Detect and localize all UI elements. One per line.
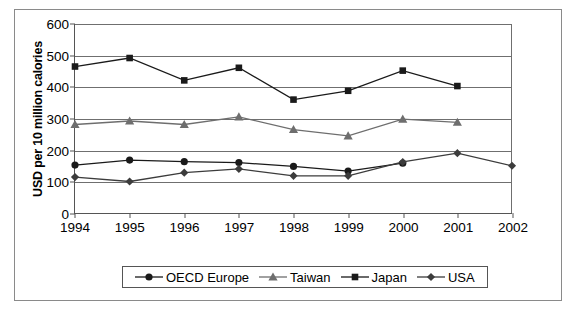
circle-marker	[290, 163, 297, 170]
legend-item-oecd-europe: OECD Europe	[135, 270, 249, 285]
series-line	[75, 58, 457, 100]
x-tick-label: 2000	[388, 220, 418, 235]
diamond-marker	[235, 165, 243, 173]
circle-marker	[181, 158, 188, 165]
square-marker	[236, 65, 243, 72]
legend-label: Taiwan	[290, 270, 330, 285]
plot-area: 0100200300400500600 19941995199619971998…	[74, 24, 512, 214]
legend-label: Japan	[372, 270, 407, 285]
x-tick-mark	[129, 213, 130, 218]
chart-figure: USD per 10 million calories 010020030040…	[0, 0, 577, 312]
y-tick-label: 400	[46, 80, 69, 95]
y-tick-label: 500	[46, 48, 69, 63]
diamond-marker	[180, 169, 188, 177]
triangle-icon	[259, 271, 287, 283]
diamond-marker	[126, 177, 134, 185]
x-tick-label: 2001	[443, 220, 473, 235]
square-marker	[351, 274, 358, 281]
square-marker	[345, 87, 352, 94]
x-tick-label: 1998	[279, 220, 309, 235]
x-tick-mark	[294, 213, 295, 218]
square-marker	[454, 83, 461, 90]
legend-item-japan: Japan	[341, 270, 407, 285]
y-tick-label: 300	[46, 112, 69, 127]
square-marker	[399, 67, 406, 74]
x-tick-label: 1996	[169, 220, 199, 235]
chart-legend: OECD EuropeTaiwanJapanUSA	[122, 266, 488, 288]
x-tick-label: 1995	[115, 220, 145, 235]
y-tick-label: 200	[46, 143, 69, 158]
series-layer	[75, 24, 512, 213]
x-tick-label: 2002	[498, 220, 528, 235]
legend-label: USA	[448, 270, 475, 285]
square-marker	[181, 77, 188, 84]
y-tick-label: 600	[46, 17, 69, 32]
x-tick-label: 1994	[60, 220, 90, 235]
triangle-marker	[398, 115, 407, 123]
triangle-marker	[125, 116, 134, 124]
circle-marker	[71, 162, 78, 169]
square-marker	[290, 96, 297, 103]
x-tick-mark	[184, 213, 185, 218]
y-axis-title: USD per 10 million calories	[31, 19, 45, 219]
x-tick-mark	[513, 213, 514, 218]
x-tick-mark	[403, 213, 404, 218]
series-japan	[72, 55, 461, 103]
square-marker	[126, 55, 133, 62]
x-tick-mark	[239, 213, 240, 218]
square-icon	[341, 271, 369, 283]
legend-label: OECD Europe	[166, 270, 249, 285]
legend-item-usa: USA	[417, 270, 475, 285]
diamond-marker	[427, 273, 435, 281]
series-taiwan	[70, 112, 462, 139]
y-tick-label: 100	[46, 175, 69, 190]
circle-marker	[145, 273, 152, 280]
circle-marker	[126, 156, 133, 163]
x-tick-mark	[458, 213, 459, 218]
diamond-marker	[289, 172, 297, 180]
x-tick-label: 1997	[224, 220, 254, 235]
square-marker	[72, 63, 79, 70]
x-tick-label: 1999	[334, 220, 364, 235]
diamond-marker	[453, 149, 461, 157]
diamond-icon	[417, 271, 445, 283]
x-tick-mark	[75, 213, 76, 218]
circle-icon	[135, 271, 163, 283]
triangle-marker	[234, 112, 243, 120]
x-tick-mark	[348, 213, 349, 218]
legend-item-taiwan: Taiwan	[259, 270, 330, 285]
